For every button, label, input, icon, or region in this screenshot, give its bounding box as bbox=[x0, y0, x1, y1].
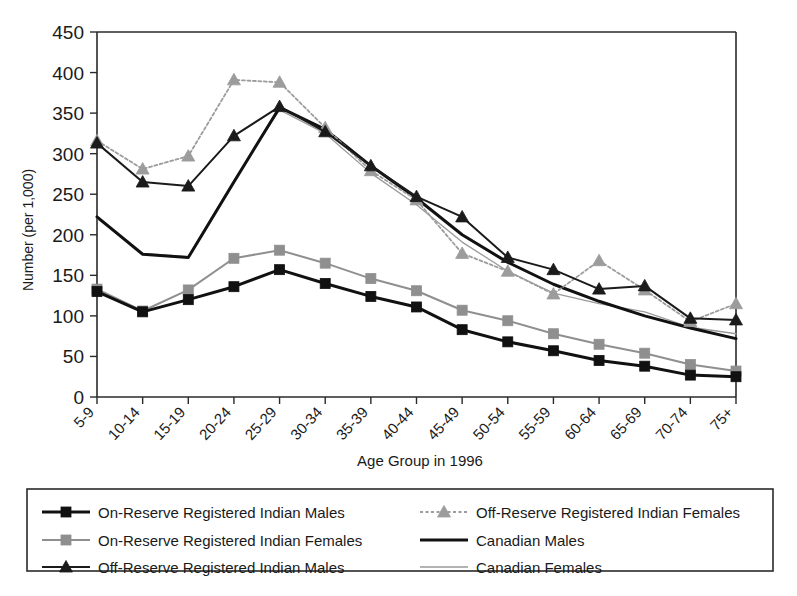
data-point-marker bbox=[503, 316, 513, 326]
legend-label: Canadian Females bbox=[476, 559, 602, 576]
data-point-marker bbox=[275, 245, 285, 255]
legend-label: On-Reserve Registered Indian Females bbox=[98, 532, 362, 549]
data-point-marker bbox=[275, 265, 285, 275]
data-point-marker bbox=[183, 295, 193, 305]
data-point-marker bbox=[366, 291, 376, 301]
y-tick-label: 200 bbox=[52, 225, 84, 246]
y-tick-label: 450 bbox=[52, 22, 84, 43]
data-point-marker bbox=[61, 535, 71, 545]
data-point-marker bbox=[366, 274, 376, 284]
data-point-marker bbox=[457, 305, 467, 315]
data-point-marker bbox=[685, 360, 695, 370]
data-point-marker bbox=[594, 339, 604, 349]
legend-label: On-Reserve Registered Indian Males bbox=[98, 504, 345, 521]
data-point-marker bbox=[457, 325, 467, 335]
data-point-marker bbox=[685, 370, 695, 380]
data-point-marker bbox=[61, 507, 71, 517]
y-tick-label: 150 bbox=[52, 265, 84, 286]
data-point-marker bbox=[548, 346, 558, 356]
data-point-marker bbox=[640, 348, 650, 358]
line-chart: 050100150200250300350400450 5-910-1415-1… bbox=[0, 0, 797, 596]
data-point-marker bbox=[412, 302, 422, 312]
data-point-marker bbox=[731, 372, 741, 382]
data-point-marker bbox=[92, 287, 102, 297]
data-point-marker bbox=[503, 337, 513, 347]
y-axis-title: Number (per 1,000) bbox=[20, 169, 36, 291]
y-tick-label: 50 bbox=[63, 346, 84, 367]
data-point-marker bbox=[229, 282, 239, 292]
x-axis-title: Age Group in 1996 bbox=[357, 452, 483, 469]
data-point-marker bbox=[320, 278, 330, 288]
data-point-marker bbox=[229, 253, 239, 263]
y-tick-label: 100 bbox=[52, 306, 84, 327]
y-tick-label: 350 bbox=[52, 103, 84, 124]
y-tick-label: 250 bbox=[52, 184, 84, 205]
data-point-marker bbox=[412, 286, 422, 296]
legend-label: Canadian Males bbox=[476, 532, 584, 549]
legend-label: Off-Reserve Registered Indian Females bbox=[476, 504, 740, 521]
data-point-marker bbox=[640, 361, 650, 371]
data-point-marker bbox=[320, 258, 330, 268]
data-point-marker bbox=[594, 356, 604, 366]
chart-figure: 050100150200250300350400450 5-910-1415-1… bbox=[0, 0, 797, 596]
data-point-marker bbox=[138, 307, 148, 317]
data-point-marker bbox=[183, 285, 193, 295]
data-point-marker bbox=[548, 329, 558, 339]
y-tick-label: 400 bbox=[52, 63, 84, 84]
legend-label: Off-Reserve Registered Indian Males bbox=[98, 559, 345, 576]
y-tick-label: 300 bbox=[52, 144, 84, 165]
